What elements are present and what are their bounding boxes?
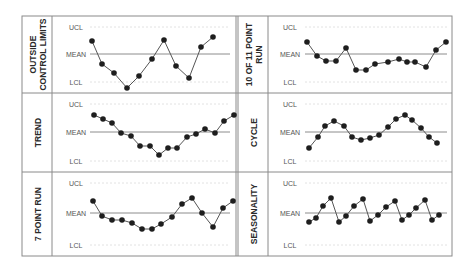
panel-title: CYCLE <box>249 118 259 147</box>
data-point <box>129 220 135 226</box>
panel-title-line: OUTSIDE <box>28 35 38 73</box>
series-line <box>94 115 234 155</box>
data-point <box>212 130 218 136</box>
data-point <box>109 217 115 223</box>
panel-title: TREND <box>33 118 43 147</box>
data-point <box>333 58 339 64</box>
data-point <box>89 38 95 44</box>
data-point <box>128 133 134 139</box>
data-point <box>179 201 185 207</box>
lcl-label: LCL <box>70 79 83 86</box>
data-point <box>119 217 125 223</box>
data-point <box>363 67 369 73</box>
data-point <box>328 195 334 201</box>
data-point <box>343 45 349 51</box>
data-point <box>118 130 124 136</box>
panel-title-line: CONTROL LIMITS <box>38 18 48 90</box>
panel-title-line: RUN <box>254 45 264 63</box>
series-line <box>92 37 213 88</box>
mean-label: MEAN <box>66 51 86 58</box>
chart-panel-seasonality: SEASONALITYUCLMEANLCL <box>249 180 448 249</box>
data-point <box>409 117 415 123</box>
data-point <box>161 37 167 43</box>
data-point <box>136 73 142 79</box>
data-point <box>322 123 328 129</box>
data-point <box>189 195 195 201</box>
data-point <box>91 112 97 118</box>
data-point <box>149 56 155 62</box>
panel-title-line: SEASONALITY <box>249 183 259 244</box>
data-point <box>349 134 355 140</box>
data-point <box>434 140 440 146</box>
data-point <box>412 59 418 65</box>
data-point <box>341 123 347 129</box>
panel-title-line: CYCLE <box>249 118 259 147</box>
data-point <box>184 134 190 140</box>
data-point <box>156 152 162 158</box>
data-point <box>210 224 216 230</box>
mean-label: MEAN <box>66 210 86 217</box>
data-point <box>336 219 342 225</box>
panel-title: 7 POINT RUN <box>33 187 43 241</box>
ucl-label: UCL <box>69 24 83 31</box>
panel-title: 10 OF 11 POINTRUN <box>244 22 264 86</box>
data-point <box>343 213 349 219</box>
data-point <box>367 135 373 141</box>
mean-label: MEAN <box>280 51 300 58</box>
data-point <box>100 116 106 122</box>
data-point <box>111 70 117 76</box>
data-point <box>375 212 381 218</box>
data-point <box>358 137 364 143</box>
data-point <box>139 226 145 232</box>
data-point <box>323 58 329 64</box>
data-point <box>314 53 320 59</box>
chart-panel-outside-control-limits: OUTSIDECONTROL LIMITSUCLMEANLCL <box>28 18 231 91</box>
ucl-label: UCL <box>283 101 297 108</box>
data-point <box>124 85 130 91</box>
data-point <box>165 145 171 151</box>
data-point <box>360 196 366 202</box>
data-point <box>426 134 432 140</box>
data-point <box>231 112 237 118</box>
panel-title: OUTSIDECONTROL LIMITS <box>28 18 48 90</box>
data-point <box>429 217 435 223</box>
data-point <box>402 112 408 118</box>
data-point <box>169 214 175 220</box>
data-point <box>199 210 205 216</box>
data-point <box>367 218 373 224</box>
mean-label: MEAN <box>280 129 300 136</box>
data-point <box>306 219 312 225</box>
data-point <box>436 212 442 218</box>
data-point <box>413 205 419 211</box>
data-point <box>404 59 410 65</box>
lcl-label: LCL <box>284 242 297 249</box>
data-point <box>385 59 391 65</box>
data-point <box>396 56 402 62</box>
chart-panel-7-point-run: 7 POINT RUNUCLMEANLCL <box>33 180 236 249</box>
data-point <box>304 39 310 45</box>
data-point <box>313 215 319 221</box>
data-point <box>210 34 216 40</box>
chart-panel-trend: TRENDUCLMEANLCL <box>33 101 237 165</box>
mean-label: MEAN <box>280 210 300 217</box>
data-point <box>385 124 391 130</box>
chart-panel-cycle: CYCLEUCLMEANLCL <box>249 101 448 165</box>
data-point <box>220 205 226 211</box>
data-point <box>186 75 192 81</box>
data-point <box>392 198 398 204</box>
data-point <box>137 143 143 149</box>
data-point <box>331 118 337 124</box>
panel-title-line: 10 OF 11 POINT <box>244 22 254 86</box>
control-chart-grid: OUTSIDECONTROL LIMITSUCLMEANLCL10 OF 11 … <box>0 0 472 273</box>
data-point <box>423 64 429 70</box>
panel-title: SEASONALITY <box>249 183 259 244</box>
data-point <box>320 203 326 209</box>
data-point <box>306 145 312 151</box>
lcl-label: LCL <box>284 79 297 86</box>
data-point <box>99 213 105 219</box>
data-point <box>99 61 105 67</box>
panel-title-line: TREND <box>33 118 43 147</box>
data-point <box>393 116 399 122</box>
data-point <box>353 67 359 73</box>
ucl-label: UCL <box>69 180 83 187</box>
